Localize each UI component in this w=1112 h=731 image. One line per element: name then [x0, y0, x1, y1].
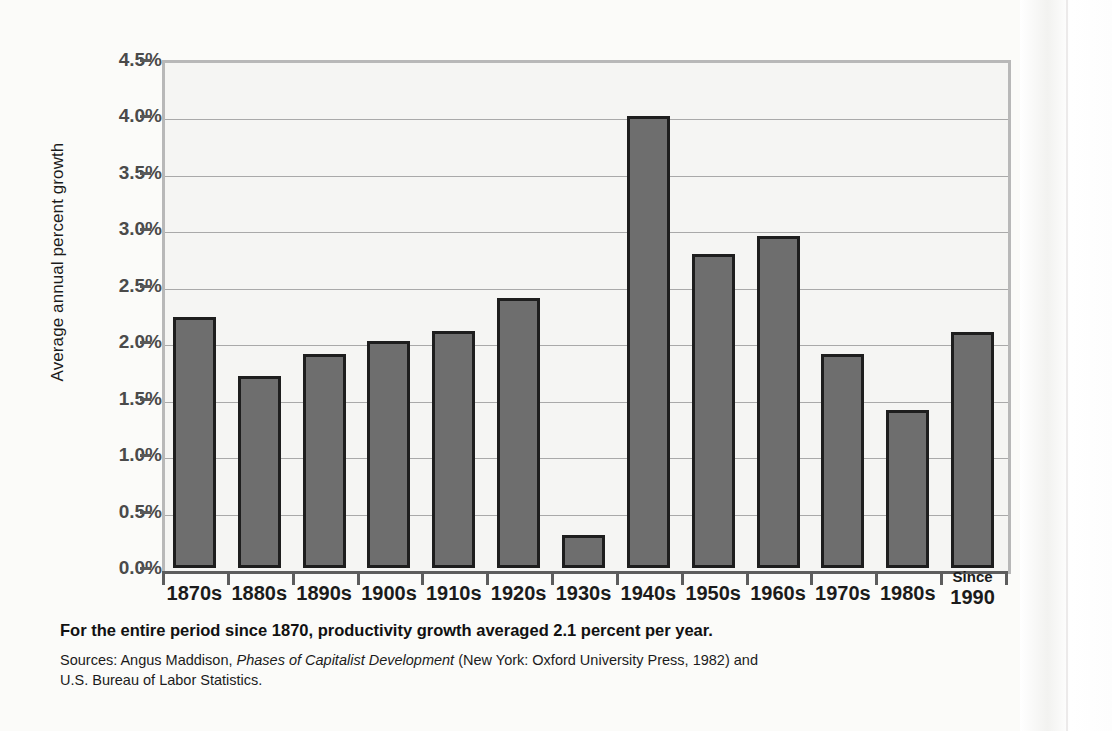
y-tick-mark [140, 115, 151, 118]
page-edge-line [1066, 0, 1068, 731]
caption-sources: Sources: Angus Maddison, Phases of Capit… [60, 651, 760, 690]
x-axis-line [162, 571, 1007, 574]
y-tick-mark [140, 511, 151, 514]
bar [303, 354, 346, 568]
bar [497, 298, 540, 568]
figure-caption: For the entire period since 1870, produc… [60, 619, 760, 690]
y-tick-mark [140, 285, 151, 288]
bar [627, 116, 670, 568]
y-tick-mark [140, 341, 151, 344]
sources-prefix: Sources: Angus Maddison, [60, 652, 237, 668]
scanned-page: Average annual percent growth 0.0%0.5%1.… [0, 0, 1112, 731]
bar-chart-figure: Average annual percent growth 0.0%0.5%1.… [0, 0, 1030, 731]
bar [692, 254, 735, 568]
bar [562, 535, 605, 568]
y-tick-mark [140, 567, 151, 570]
bar [757, 236, 800, 568]
bar [238, 376, 281, 568]
bars-layer [162, 60, 1005, 568]
sources-italic-title: Phases of Capitalist Development [237, 652, 455, 668]
y-tick-mark [140, 172, 151, 175]
bar [432, 331, 475, 568]
y-tick-mark [140, 398, 151, 401]
caption-main-text: For the entire period since 1870, produc… [60, 619, 760, 642]
x-tick-label-line2: 1990 [928, 586, 1018, 608]
y-tick-mark [140, 454, 151, 457]
bar [367, 341, 410, 568]
y-tick-mark [140, 228, 151, 231]
bar [886, 410, 929, 568]
bar [821, 354, 864, 568]
x-tick-label-line1: Since [928, 569, 1018, 586]
bar [951, 332, 994, 568]
y-tick-mark [140, 59, 151, 62]
bar [173, 317, 216, 568]
y-axis: 0.0%0.5%1.0%1.5%2.0%2.5%3.0%3.5%4.0%4.5% [52, 60, 162, 568]
x-tick-label: Since1990 [928, 569, 1018, 608]
